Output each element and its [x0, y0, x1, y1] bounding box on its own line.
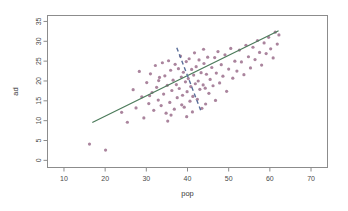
data-point [195, 65, 198, 68]
y-axis-ticks: 05101520253035 [35, 17, 47, 162]
data-point [188, 100, 191, 103]
data-point [197, 58, 200, 61]
x-tick-label-10: 10 [60, 175, 68, 182]
x-tick-label-30: 30 [142, 175, 150, 182]
data-point [235, 69, 238, 72]
data-point [192, 73, 195, 76]
data-point [221, 75, 224, 78]
data-point [204, 102, 207, 105]
chart-canvas: 10203040506070 05101520253035 pop ad [0, 0, 348, 211]
y-tick-label-0: 0 [35, 158, 42, 162]
data-point [185, 90, 188, 93]
data-point [138, 70, 141, 73]
data-point [132, 88, 135, 91]
data-point [174, 63, 177, 66]
data-point [199, 71, 202, 74]
data-point [184, 80, 187, 83]
data-point [154, 64, 157, 67]
x-tick-label-40: 40 [184, 175, 192, 182]
data-point [240, 60, 243, 63]
y-tick-label-5: 5 [35, 138, 42, 142]
data-point [277, 33, 280, 36]
data-point [157, 98, 160, 101]
data-point [247, 55, 250, 58]
data-points [88, 31, 281, 152]
data-point [216, 50, 219, 53]
data-point [227, 67, 230, 70]
data-point [204, 87, 207, 90]
data-point [169, 114, 172, 117]
data-point [166, 119, 169, 122]
data-point [163, 74, 166, 77]
data-point [215, 71, 218, 74]
data-point [155, 86, 158, 89]
data-point [220, 63, 223, 66]
y-axis-label: ad [11, 87, 20, 95]
data-point [265, 52, 268, 55]
data-point [242, 73, 245, 76]
y-tick-label-35: 35 [35, 17, 42, 25]
data-point [210, 66, 213, 69]
data-point [120, 111, 123, 114]
data-point [158, 76, 161, 79]
data-point [180, 103, 183, 106]
y-tick-label-10: 10 [35, 117, 42, 125]
data-point [191, 95, 194, 98]
data-point [169, 69, 172, 72]
data-point [225, 90, 228, 93]
data-point [181, 94, 184, 97]
data-point [162, 92, 165, 95]
data-point [167, 59, 170, 62]
data-point [205, 73, 208, 76]
data-point [157, 79, 160, 82]
data-point [176, 96, 179, 99]
data-point [197, 79, 200, 82]
data-point [202, 83, 205, 86]
data-point [251, 46, 254, 49]
data-point [206, 56, 209, 59]
data-point [168, 101, 171, 104]
y-tick-label-30: 30 [35, 37, 42, 45]
data-point [152, 109, 155, 112]
data-point [126, 121, 129, 124]
data-point [160, 104, 163, 107]
data-point [211, 84, 214, 87]
data-point [207, 92, 210, 95]
data-point [214, 99, 217, 102]
x-tick-label-20: 20 [101, 175, 109, 182]
data-point [269, 47, 272, 50]
y-tick-label-20: 20 [35, 77, 42, 85]
data-point [134, 106, 137, 109]
data-point [213, 56, 216, 59]
x-tick-label-60: 60 [266, 175, 274, 182]
x-tick-label-70: 70 [307, 175, 315, 182]
data-point [276, 42, 279, 45]
data-point [170, 89, 173, 92]
data-point [202, 62, 205, 65]
data-point [175, 83, 178, 86]
data-point [178, 87, 181, 90]
regression-line [93, 31, 278, 122]
y-tick-label-15: 15 [35, 97, 42, 105]
data-point [194, 82, 197, 85]
data-point [272, 56, 275, 59]
data-point [253, 58, 256, 61]
data-point [183, 106, 186, 109]
data-point [202, 48, 205, 51]
x-axis-ticks: 10203040506070 [60, 168, 315, 182]
data-point [218, 81, 221, 84]
data-point [149, 72, 152, 75]
data-point [145, 81, 148, 84]
annotation-lines [93, 31, 278, 122]
data-point [191, 110, 194, 113]
data-point [164, 112, 167, 115]
data-point [190, 68, 193, 71]
data-point [104, 148, 107, 151]
data-point [88, 142, 91, 145]
data-point [233, 60, 236, 63]
data-point [260, 64, 263, 67]
data-point [262, 41, 265, 44]
scatter-plot-figure: 10203040506070 05101520253035 pop ad [0, 0, 348, 211]
x-tick-label-50: 50 [225, 175, 233, 182]
data-point [229, 47, 232, 50]
